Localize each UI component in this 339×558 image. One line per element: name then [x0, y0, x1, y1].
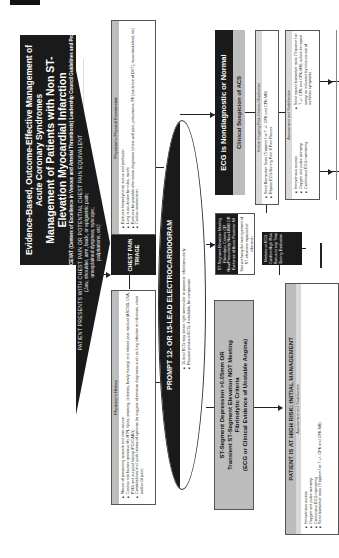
chest-pain-triage-panel: Physician's History Nature of presenting…	[111, 20, 156, 505]
presentation-detail-3: palpitations, etc)	[95, 130, 101, 355]
ecg-title: PROMPT 12- OR 15-LEAD ELECTROCARDIOGRAM	[159, 121, 180, 489]
st-elevation-note: See pathway for management of ST-elevati…	[238, 214, 256, 274]
high-risk-item: Send biomarker tests (Troponin I or T +/…	[318, 284, 323, 528]
connector-markers-highrisk	[302, 248, 306, 249]
nondiagnostic-title: ECG is Nondiagnostic or Normal	[215, 30, 233, 195]
connector-eval-markers	[266, 205, 267, 213]
presentation-text: PATIENT PRESENTS WITH CHEST PAIN OR POTE…	[77, 130, 101, 355]
exam-heading: Physician's Physical Examination	[112, 21, 119, 234]
nondiagnostic-subtitle: Clinical Suspicion of ACS	[233, 30, 245, 195]
triage-title: CHEST PAIN TRIAGE	[111, 235, 156, 275]
ecg-list: 15-lead ECG may detect right ventricular…	[180, 121, 192, 489]
triage-title-text: CHEST PAIN TRIAGE	[127, 235, 141, 275]
history-item: Cardiac risk factors (previous MI, HTN, …	[126, 291, 136, 498]
high-risk-title: PATIENT IS AT HIGH RISK: INITIAL MANAGEM…	[286, 284, 296, 534]
st-elevation-box: ST-Segment Elevation Meeting Fibrinolyti…	[215, 213, 255, 275]
assessment-right-col1: Intravenous access Oxygen and pulse oxim…	[292, 115, 313, 199]
evaluation-list: Send Biomarker Tests (Troponin I or T +/…	[262, 31, 274, 204]
history-list: Nature of presenting episode and time co…	[119, 291, 145, 504]
corner-marker	[10, 0, 40, 5]
connector-eval-assessment	[279, 112, 285, 113]
ecg-item: Request previous ECG, if available, for …	[187, 121, 192, 369]
presentation-triangle: PATIENT PRESENTS WITH CHEST PAIN OR POTE…	[76, 70, 110, 415]
connector-markers-highrisk-h	[279, 265, 280, 275]
title-block-main: Evidence-Based, Outcome-Effective Manage…	[20, 35, 70, 265]
exam-list: Evaluate hemodynamic status and perfusio…	[119, 21, 140, 234]
history-heading: Physician's History	[112, 291, 119, 504]
assessment-right-item: Send repeat biomarker tests (Troponin I …	[294, 31, 313, 109]
high-risk-box: PATIENT IS AT HIGH RISK: INITIAL MANAGEM…	[285, 283, 339, 535]
arrow-down-icon	[278, 405, 283, 411]
st-depression-line-4: (ECG or Clinical Evidence of Unstable An…	[242, 301, 250, 509]
history-item: Comorbidities and quick review of system…	[135, 291, 145, 498]
assessment-right-box: Assessment and Stabilization Intravenous…	[285, 30, 320, 200]
title-line-2: Management of Patients with Non ST-Eleva…	[44, 41, 68, 259]
st-depression-line-2: Transient ST-Segment Elevation NOT Meeti…	[227, 301, 235, 509]
markers-box: Markers or ECG Confirm High Risk Status …	[262, 232, 302, 265]
bottom-rule-short	[320, 243, 322, 268]
evaluation-box: Initiate Ongoing Risk-Oriented Evaluatio…	[255, 30, 279, 205]
high-risk-list: Intravenous access Oxygen and pulse oxim…	[301, 284, 323, 534]
exam-item: Cardiac examination	[135, 21, 140, 228]
st-elevation-title: ST-Segment Elevation Meeting Fibrinolyti…	[216, 214, 238, 274]
assessment-right-item: Continuous ECG monitoring	[304, 115, 309, 193]
ecg-ellipse: PROMPT 12- OR 15-LEAD ELECTROCARDIOGRAM …	[158, 120, 206, 490]
markers-text: Markers or ECG Confirm High Risk Status …	[264, 232, 284, 265]
double-arrow-left-icon	[129, 275, 130, 289]
title-line-1: Evidence-Based, Outcome-Effective Manage…	[24, 41, 44, 259]
flowchart-page: Evidence-Based, Outcome-Effective Manage…	[0, 0, 339, 558]
st-depression-box: ST-Segment Depression >0.05mm OR Transie…	[214, 300, 254, 510]
nondiagnostic-block: ECG is Nondiagnostic or Normal Clinical …	[215, 30, 245, 195]
evaluation-item: Repeat ECG During Pain If Pain Recurs	[269, 31, 274, 198]
st-depression-line-3: Fibrinolytic Criteria	[234, 301, 242, 509]
bottom-rule	[336, 30, 337, 200]
subtitle: CEVAT (Centers of Excellence in Venous a…	[68, 35, 76, 265]
arrow-down-icon	[328, 169, 333, 175]
history-box: Physician's History Nature of presenting…	[111, 290, 156, 505]
exam-box: Physician's Physical Examination Evaluat…	[111, 20, 156, 235]
connector-nondiag-eval	[245, 112, 255, 113]
subtitle-bar: CEVAT (Centers of Excellence in Venous a…	[68, 35, 76, 265]
assessment-right-columns: Intravenous access Oxygen and pulse oxim…	[292, 31, 313, 199]
connector-exam-ecg	[156, 167, 164, 168]
arrow-down-icon	[328, 79, 333, 85]
assessment-right-col2: Send repeat biomarker tests (Troponin I …	[292, 31, 313, 115]
st-depression-line-1: ST-Segment Depression >0.05mm OR	[219, 301, 227, 509]
